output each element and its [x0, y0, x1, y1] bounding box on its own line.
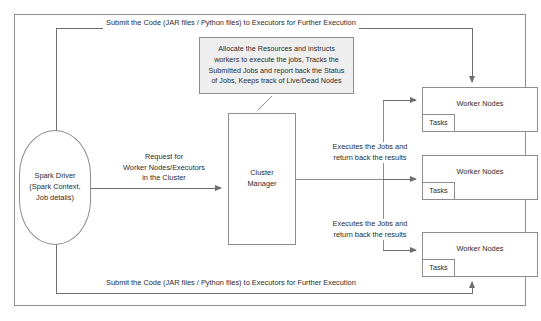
- edge-label-executes-2: Executes the Jobs and return back the re…: [318, 219, 422, 240]
- edge-label-request: Request for Worker Nodes/Executors in th…: [108, 152, 220, 184]
- cluster-manager-node[interactable]: Cluster Manager: [228, 113, 296, 245]
- worker-node-2[interactable]: Worker Nodes Tasks: [422, 155, 538, 200]
- worker-node-label: Worker Nodes: [456, 244, 503, 255]
- worker-node-label: Worker Nodes: [456, 99, 503, 110]
- worker-node-label: Worker Nodes: [456, 167, 503, 178]
- tasks-box: Tasks: [422, 182, 455, 200]
- spark-driver-label: Spark Driver (Spark Context, Job details…: [29, 171, 80, 203]
- cluster-manager-label: Cluster Manager: [247, 168, 276, 189]
- edge-label-submit-bottom: Submit the Code (JAR files / Python file…: [103, 278, 359, 289]
- cluster-manager-callout: Allocate the Resources and instructs wor…: [199, 37, 354, 94]
- spark-driver-node[interactable]: Spark Driver (Spark Context, Job details…: [19, 130, 91, 245]
- edge-label-submit-top: Submit the Code (JAR files / Python file…: [103, 18, 359, 29]
- edge-label-executes-1: Executes the Jobs and return back the re…: [318, 142, 422, 163]
- wire-callout-leader: [258, 96, 272, 110]
- worker-node-1[interactable]: Worker Nodes Tasks: [422, 87, 538, 132]
- worker-node-3[interactable]: Worker Nodes Tasks: [422, 232, 538, 277]
- tasks-box: Tasks: [422, 114, 455, 132]
- diagram-canvas: Allocate the Resources and instructs wor…: [0, 0, 541, 321]
- callout-text: Allocate the Resources and instructs wor…: [205, 44, 348, 88]
- tasks-box: Tasks: [422, 259, 455, 277]
